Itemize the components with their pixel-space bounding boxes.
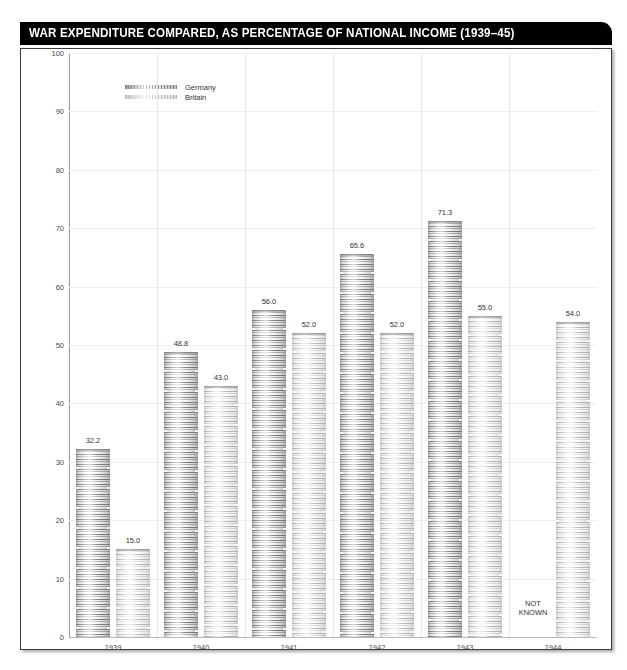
bar-texture [204,386,238,637]
bar-value-britain-1941: 52.0 [302,320,317,329]
legend-label: Germany [185,83,216,92]
y-tick-label: 100 [51,49,64,58]
bar-top-cap [556,322,590,324]
bar-top-cap [116,549,150,551]
bar-texture [468,316,502,637]
y-tick-label: 90 [56,107,64,116]
bar-britain-1942[interactable] [380,333,414,637]
bar-value-germany-1943: 71.3 [438,208,453,217]
legend-label: Britain [185,93,206,102]
bar-texture [116,549,150,637]
bar-top-cap [340,254,374,256]
bar-value-germany-1940: 48.8 [174,339,189,348]
bar-rim-nicks [76,449,110,637]
germany-swatch [125,85,177,89]
bar-rim-nicks [428,221,462,637]
bar-top-cap [204,386,238,388]
bar-texture [292,333,326,637]
chart-panel: 0102030405060708090100 32.215.048.843.05… [20,48,612,650]
not-known-annotation: NOT KNOWN [519,599,548,617]
group-separator-1940 [157,53,158,637]
x-axis-label-1941: 1941 [281,643,298,652]
y-tick-label: 60 [56,282,64,291]
bar-top-cap [252,310,286,312]
bar-texture [164,352,198,637]
group-separator-1942 [333,53,334,637]
bar-value-britain-1942: 52.0 [390,320,405,329]
bar-top-cap [468,316,502,318]
bar-rim-nicks [204,386,238,637]
bar-texture [252,310,286,637]
group-separator-1941 [245,53,246,637]
y-tick-label: 40 [56,399,64,408]
bar-germany-1940[interactable] [164,352,198,637]
chart-legend: GermanyBritain [125,82,216,102]
plot-area: 0102030405060708090100 32.215.048.843.05… [69,53,597,637]
bar-texture [340,254,374,637]
y-tick-label: 70 [56,224,64,233]
bar-rim-nicks [340,254,374,637]
bar-top-cap [380,333,414,335]
group-separator-1944 [509,53,510,637]
chart-page: WAR EXPENDITURE COMPARED, AS PERCENTAGE … [0,0,627,670]
bar-rim-nicks [116,549,150,637]
legend-item-britain[interactable]: Britain [125,92,216,102]
y-tick-label: 20 [56,516,64,525]
x-axis-label-1943: 1943 [457,643,474,652]
bar-rim-nicks [556,322,590,637]
bar-germany-1943[interactable] [428,221,462,637]
bar-top-cap [292,333,326,335]
bar-value-britain-1939: 15.0 [126,536,141,545]
bar-value-germany-1942: 65.6 [350,241,365,250]
x-axis-label-1942: 1942 [369,643,386,652]
gridline-y-0 [69,637,597,638]
bar-value-germany-1939: 32.2 [86,436,101,445]
bar-top-cap [164,352,198,354]
title-banner: WAR EXPENDITURE COMPARED, AS PERCENTAGE … [20,22,612,45]
bar-texture [428,221,462,637]
y-tick-label: 0 [60,633,64,642]
bar-britain-1941[interactable] [292,333,326,637]
bar-value-britain-1943: 55.0 [478,303,493,312]
y-tick-label: 10 [56,574,64,583]
bar-top-cap [76,449,110,451]
bar-top-cap [428,221,462,223]
bar-rim-nicks [164,352,198,637]
bar-rim-nicks [292,333,326,637]
bar-germany-1941[interactable] [252,310,286,637]
bar-germany-1942[interactable] [340,254,374,637]
y-tick-label: 80 [56,165,64,174]
group-separator-1943 [421,53,422,637]
bar-rim-nicks [380,333,414,637]
bar-britain-1939[interactable] [116,549,150,637]
bar-value-britain-1944: 54.0 [566,309,581,318]
bar-britain-1944[interactable] [556,322,590,637]
bar-value-britain-1940: 43.0 [214,373,229,382]
bar-value-germany-1941: 56.0 [262,297,277,306]
britain-swatch [125,95,177,99]
bar-texture [556,322,590,637]
x-axis-label-1944: 1944 [545,643,562,652]
bar-rim-nicks [252,310,286,637]
bar-britain-1943[interactable] [468,316,502,637]
bar-britain-1940[interactable] [204,386,238,637]
bar-germany-1939[interactable] [76,449,110,637]
bar-texture [380,333,414,637]
x-axis-label-1939: 1939 [105,643,122,652]
y-tick-label: 30 [56,457,64,466]
bar-rim-nicks [468,316,502,637]
page-title: WAR EXPENDITURE COMPARED, AS PERCENTAGE … [29,26,515,40]
bar-texture [76,449,110,637]
y-tick-label: 50 [56,341,64,350]
legend-item-germany[interactable]: Germany [125,82,216,92]
x-axis-label-1940: 1940 [193,643,210,652]
